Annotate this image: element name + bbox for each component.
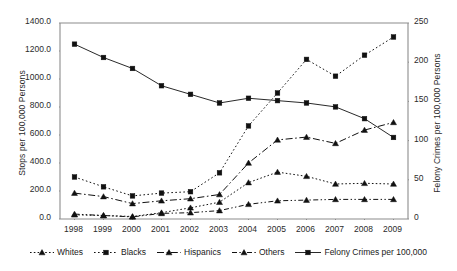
data-point-square xyxy=(188,92,193,97)
legend-label: Hispanics xyxy=(184,247,221,257)
data-point-triangle xyxy=(217,199,223,204)
data-point-triangle xyxy=(101,194,107,199)
data-point-square xyxy=(188,189,193,194)
data-point-square xyxy=(217,171,222,176)
y-left-tick-label: 1200.0 xyxy=(9,44,51,54)
series-blacks xyxy=(72,35,396,199)
data-point-square xyxy=(72,175,77,180)
y-right-tick-label: 0 xyxy=(414,212,456,222)
y-left-tick-label: 600.0 xyxy=(9,128,51,138)
series-whites xyxy=(72,169,397,219)
data-point-square xyxy=(159,83,164,88)
legend-swatch-triangle-icon xyxy=(30,248,54,257)
data-point-square xyxy=(275,91,280,96)
data-point-square xyxy=(304,101,309,106)
legend-label: Felony Crimes per 100,000 xyxy=(324,247,427,257)
data-point-triangle xyxy=(188,210,194,215)
y-left-tick-label: 1400.0 xyxy=(9,16,51,26)
data-point-triangle xyxy=(304,134,310,139)
series-line xyxy=(75,37,394,196)
data-point-triangle xyxy=(275,169,281,174)
data-point-triangle xyxy=(275,137,281,142)
legend-swatch-triangle-icon xyxy=(232,248,256,257)
y-right-tick-label: 50 xyxy=(414,173,456,183)
data-point-square xyxy=(333,74,338,79)
data-point-triangle xyxy=(362,180,368,185)
data-point-square xyxy=(246,124,251,129)
y-left-tick-label: 800.0 xyxy=(9,100,51,110)
series-felony-crimes-per-100-000 xyxy=(72,42,396,140)
data-point-triangle xyxy=(333,197,339,202)
data-point-square xyxy=(130,66,135,71)
data-point-triangle xyxy=(217,192,223,197)
legend-label: Blacks xyxy=(121,247,146,257)
data-point-square xyxy=(391,35,396,40)
data-point-square xyxy=(275,98,280,103)
chart-figure: Stops per 100,000 Persons Felony Crimes … xyxy=(0,0,457,271)
data-point-triangle xyxy=(241,249,247,254)
data-point-square xyxy=(130,194,135,199)
data-point-square xyxy=(72,42,77,47)
chart-svg xyxy=(59,22,409,220)
data-point-square xyxy=(159,191,164,196)
data-point-square xyxy=(306,250,311,255)
y-left-tick-label: 400.0 xyxy=(9,156,51,166)
series-line xyxy=(75,44,394,137)
legend-label: Whites xyxy=(57,247,83,257)
y-left-tick-label: 1000.0 xyxy=(9,72,51,82)
y-axis-left-title: Stops per 100,000 Persons xyxy=(17,43,27,203)
y-right-tick-label: 150 xyxy=(414,94,456,104)
y-left-tick-label: 200.0 xyxy=(9,184,51,194)
data-point-square xyxy=(362,116,367,121)
y-right-tick-label: 200 xyxy=(414,55,456,65)
data-point-square xyxy=(333,105,338,110)
y-right-tick-label: 100 xyxy=(414,134,456,144)
series-line xyxy=(75,199,394,217)
data-point-triangle xyxy=(246,160,252,165)
legend-item-others[interactable]: Others xyxy=(232,247,285,257)
y-right-tick-label: 250 xyxy=(414,16,456,26)
data-point-triangle xyxy=(333,181,339,186)
data-point-triangle xyxy=(333,141,339,146)
data-point-triangle xyxy=(391,120,397,125)
data-point-square xyxy=(246,96,251,101)
plot-area xyxy=(59,22,407,218)
data-point-square xyxy=(304,57,309,62)
legend-swatch-square-icon xyxy=(295,248,321,257)
legend-item-hispanics[interactable]: Hispanics xyxy=(157,247,221,257)
legend-swatch-square-icon xyxy=(94,248,118,257)
data-point-triangle xyxy=(304,173,310,178)
legend-item-blacks[interactable]: Blacks xyxy=(94,247,146,257)
legend-label: Others xyxy=(259,247,285,257)
data-point-square xyxy=(391,135,396,140)
legend-item-whites[interactable]: Whites xyxy=(30,247,83,257)
data-point-square xyxy=(101,55,106,60)
data-point-square xyxy=(101,185,106,190)
x-tick-label: 2009 xyxy=(373,224,413,234)
series-line xyxy=(75,122,394,203)
legend-swatch-triangle-icon xyxy=(157,248,181,257)
data-point-square xyxy=(104,250,109,255)
data-point-triangle xyxy=(159,198,165,203)
chart-legend: WhitesBlacksHispanicsOthersFelony Crimes… xyxy=(0,247,457,257)
data-point-square xyxy=(362,53,367,58)
data-point-triangle xyxy=(39,249,45,254)
data-point-square xyxy=(217,101,222,106)
y-left-tick-label: 0.0 xyxy=(9,212,51,222)
data-point-triangle xyxy=(72,190,78,195)
data-point-triangle xyxy=(304,197,310,202)
legend-item-felony-crimes-per-100-000[interactable]: Felony Crimes per 100,000 xyxy=(295,247,427,257)
